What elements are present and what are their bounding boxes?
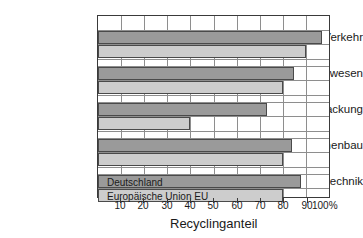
bar-verkehr-deutschland [98, 31, 322, 44]
bar-bauwesen-deutschland [98, 67, 294, 80]
bar-elektrotechnik-deutschland: Deutschland [98, 175, 301, 188]
bar-bauwesen-eu [98, 81, 283, 94]
gridline-y-6 [98, 95, 329, 96]
bar-maschinenbau-eu [98, 153, 283, 166]
bar-verkehr-eu [98, 45, 306, 58]
plot-area: Deutschland Europäische Union EU [97, 15, 330, 198]
bar-maschinenbau-deutschland [98, 139, 292, 152]
xaxis-title: Recyclinganteil [170, 216, 257, 231]
gridline-y-12 [98, 167, 329, 168]
gridline-y-9 [98, 131, 329, 132]
bar-verpackung-deutschland [98, 103, 267, 116]
ticklabel-x-100: 100% [312, 200, 358, 211]
gridline-y-3 [98, 59, 329, 60]
bar-verpackung-eu [98, 117, 190, 130]
legend-label-deutschland: Deutschland [107, 176, 163, 189]
recycling-share-bar-chart: Verkehr Bauwesen Verpackung Maschinenbau… [0, 0, 363, 238]
